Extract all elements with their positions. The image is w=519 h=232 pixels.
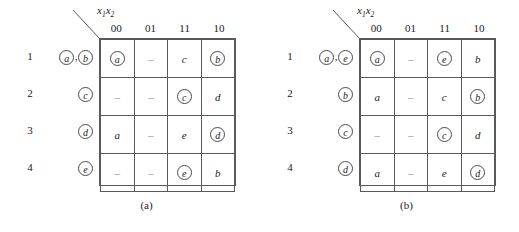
next-state-e: e (182, 129, 187, 141)
next-state-c: c (182, 53, 187, 65)
row-state-label-1: a,b (44, 38, 96, 75)
cell-r4-c01: – (394, 154, 428, 192)
row-state-label-2: b (304, 75, 356, 112)
next-state-a: a (375, 167, 381, 179)
state-d-circled: d (338, 161, 353, 176)
state-table-grid-a: a–cb––cda–ed––eb (100, 39, 235, 192)
cell-r4-c11: e (428, 154, 462, 192)
cell-r2-c10: b (461, 78, 495, 116)
cell-r3-c00: – (361, 116, 395, 154)
next-state-–-dash: – (148, 129, 154, 141)
row-number-1: 1 (22, 38, 38, 75)
next-state-a-circled: a (110, 51, 125, 66)
cell-r2-c00: a (361, 78, 395, 116)
column-header-10: 10 (202, 20, 236, 36)
next-state-e-circled: e (177, 165, 192, 180)
cell-r2-c11: c (168, 78, 202, 116)
cell-r3-c10: d (201, 116, 235, 154)
row-number-4: 4 (22, 149, 38, 186)
cell-r2-c11: c (428, 78, 462, 116)
column-header-00: 00 (359, 20, 393, 36)
column-header-01: 01 (393, 20, 427, 36)
next-state-–-dash: – (148, 167, 154, 179)
next-state-–-dash: – (408, 167, 414, 179)
next-state-–-dash: – (408, 53, 414, 65)
state-c-circled: c (78, 87, 93, 102)
next-state-c-circled: c (177, 89, 192, 104)
next-state-–-dash: – (148, 53, 154, 65)
cell-r4-c11: e (168, 154, 202, 192)
row-state-label-1: a,e (304, 38, 356, 75)
row-number-4: 4 (282, 149, 298, 186)
cell-r1-c10: b (201, 40, 235, 78)
input-variables-label-a: x1x2 (97, 4, 114, 19)
row-state-labels-b: a,ebcd (304, 38, 356, 186)
column-header-11: 11 (428, 20, 462, 36)
table-row: ––eb (101, 154, 235, 192)
input-variables-label-b: x1x2 (357, 4, 374, 19)
column-header-01: 01 (133, 20, 167, 36)
next-state-e: e (442, 167, 447, 179)
cell-r3-c10: d (461, 116, 495, 154)
row-number-2: 2 (282, 75, 298, 112)
state-table-grid-b: a–eba–cb––cda–ed (360, 39, 495, 192)
state-b-circled: b (78, 50, 93, 65)
table-row: a–ed (101, 116, 235, 154)
cell-r1-c10: b (461, 40, 495, 78)
next-state-–-dash: – (408, 91, 414, 103)
column-header-00: 00 (99, 20, 133, 36)
next-state-d: d (475, 129, 481, 141)
cell-r3-c00: a (101, 116, 135, 154)
next-state-a-circled: a (370, 51, 385, 66)
next-state-b-circled: b (210, 51, 225, 66)
cell-r3-c11: c (428, 116, 462, 154)
cell-r3-c01: – (134, 116, 168, 154)
panel-caption-b: (b) (260, 199, 519, 211)
state-b-circled: b (338, 87, 353, 102)
cell-r2-c10: d (201, 78, 235, 116)
column-headers-a: 00011110 (99, 20, 236, 36)
cell-r1-c01: – (394, 40, 428, 78)
table-row: a–cb (101, 40, 235, 78)
cell-r2-c00: – (101, 78, 135, 116)
cell-r3-c11: e (168, 116, 202, 154)
cell-r1-c00: a (361, 40, 395, 78)
cell-r2-c01: – (134, 78, 168, 116)
cell-r4-c00: a (361, 154, 395, 192)
state-table-a: a–cb––cda–ed––eb (99, 38, 236, 186)
table-row: a–cb (361, 78, 495, 116)
next-state-–-dash: – (115, 91, 121, 103)
row-state-label-4: e (44, 149, 96, 186)
row-number-3: 3 (22, 112, 38, 149)
table-row: ––cd (361, 116, 495, 154)
cell-r2-c01: – (394, 78, 428, 116)
row-state-label-3: c (304, 112, 356, 149)
state-e-circled: e (78, 161, 93, 176)
next-state-a: a (375, 91, 381, 103)
row-number-2: 2 (22, 75, 38, 112)
next-state-b: b (215, 167, 221, 179)
row-number-1: 1 (282, 38, 298, 75)
next-state-b: b (475, 53, 481, 65)
table-row: a–eb (361, 40, 495, 78)
cell-r3-c01: – (394, 116, 428, 154)
row-state-label-2: c (44, 75, 96, 112)
next-state-c-circled: c (437, 127, 452, 142)
panel-a: x1x2000111101234a,bcdea–cb––cda–ed––eb(a… (0, 0, 259, 232)
state-table-b: a–eba–cb––cda–ed (359, 38, 496, 186)
state-d-circled: d (78, 124, 93, 139)
next-state-b-circled: b (470, 89, 485, 104)
next-state-d-circled: d (470, 165, 485, 180)
state-a-circled: a (319, 50, 334, 65)
state-a-circled: a (59, 50, 74, 65)
row-state-label-4: d (304, 149, 356, 186)
next-state-d-circled: d (210, 127, 225, 142)
cell-r1-c00: a (101, 40, 135, 78)
panel-caption-text: (a) (140, 199, 152, 211)
panel-caption-text: (b) (400, 199, 413, 211)
cell-r1-c01: – (134, 40, 168, 78)
row-state-label-3: d (44, 112, 96, 149)
next-state-–-dash: – (375, 129, 381, 141)
next-state-–-dash: – (115, 167, 121, 179)
cell-r4-c10: d (461, 154, 495, 192)
